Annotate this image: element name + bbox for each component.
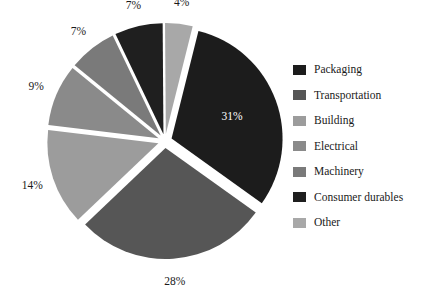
pie-slices — [47, 23, 282, 259]
pie-slice-value-label: 14% — [22, 179, 44, 191]
legend-item-label: Electrical — [314, 141, 358, 153]
legend-item-label: Other — [314, 217, 340, 229]
legend-swatch-icon — [293, 141, 306, 151]
pie-slice-value-label: 7% — [71, 25, 87, 37]
pie-slice-value-label: 7% — [126, 0, 142, 11]
legend-item-label: Machinery — [314, 166, 364, 178]
legend-swatch-icon — [293, 192, 306, 202]
legend-swatch-icon — [293, 116, 306, 126]
legend-swatch-icon — [293, 90, 306, 100]
legend-item[interactable]: Transportation — [293, 83, 423, 109]
pie-slice-value-label: 9% — [28, 80, 44, 92]
legend-item[interactable]: Electrical — [293, 134, 423, 160]
legend-swatch-icon — [293, 218, 306, 228]
pie-slice-value-label: 4% — [174, 0, 190, 8]
pie-chart: 31%28%14%9%7%7%4% PackagingTransportatio… — [0, 0, 426, 289]
legend-item-label: Building — [314, 115, 354, 127]
legend-swatch-icon — [293, 65, 306, 75]
legend-item[interactable]: Consumer durables — [293, 185, 423, 211]
chart-legend: PackagingTransportationBuildingElectrica… — [293, 57, 423, 236]
legend-item-label: Transportation — [314, 90, 381, 102]
pie-slice-value-label: 28% — [164, 275, 186, 287]
legend-swatch-icon — [293, 167, 306, 177]
legend-item[interactable]: Packaging — [293, 57, 423, 83]
legend-item-label: Packaging — [314, 64, 362, 76]
legend-item-label: Consumer durables — [314, 192, 403, 204]
legend-item[interactable]: Other — [293, 210, 423, 236]
pie-slice-value-label: 31% — [221, 110, 243, 122]
legend-item[interactable]: Machinery — [293, 159, 423, 185]
legend-item[interactable]: Building — [293, 108, 423, 134]
